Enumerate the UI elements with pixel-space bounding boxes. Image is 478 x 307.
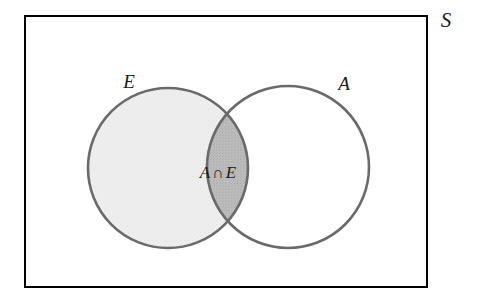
universal-set-label: S xyxy=(441,8,452,32)
intersection-label-right-operand: E xyxy=(225,163,237,182)
set-a-label: A xyxy=(336,73,350,94)
intersection-label: A∩E xyxy=(199,163,237,182)
intersection-operator-symbol: ∩ xyxy=(212,164,224,181)
intersection-label-left-operand: A xyxy=(199,163,211,182)
venn-diagram-canvas: S E A A∩E xyxy=(0,0,478,307)
venn-diagram-figure: S E A A∩E xyxy=(0,0,478,307)
set-e-label: E xyxy=(122,71,135,92)
